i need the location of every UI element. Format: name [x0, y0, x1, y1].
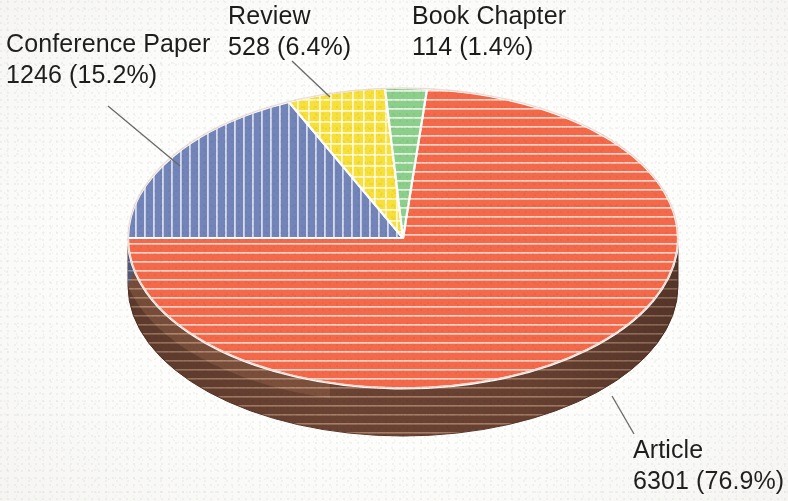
leader-line-article — [612, 396, 634, 434]
slice-label-conference-paper-value: 1246 (15.2%) — [6, 59, 211, 90]
slice-label-book-chapter-value: 114 (1.4%) — [412, 31, 566, 62]
slice-label-review: Review 528 (6.4%) — [228, 0, 351, 61]
slice-label-article-value: 6301 (76.9%) — [633, 465, 784, 496]
pie-top-surface — [128, 88, 678, 389]
slice-label-review-name: Review — [228, 1, 311, 29]
slice-label-article-name: Article — [633, 435, 703, 463]
pie-chart-figure: Conference Paper 1246 (15.2%) Review 528… — [0, 0, 788, 501]
leader-line-review — [292, 61, 330, 97]
slice-label-conference-paper-name: Conference Paper — [6, 29, 211, 57]
slice-label-review-value: 528 (6.4%) — [228, 31, 351, 62]
slice-label-conference-paper: Conference Paper 1246 (15.2%) — [6, 28, 211, 89]
slice-label-book-chapter-name: Book Chapter — [412, 1, 566, 29]
slice-label-article: Article 6301 (76.9%) — [633, 434, 784, 495]
leader-line-conference-paper — [108, 106, 180, 166]
slice-label-book-chapter: Book Chapter 114 (1.4%) — [412, 0, 566, 61]
